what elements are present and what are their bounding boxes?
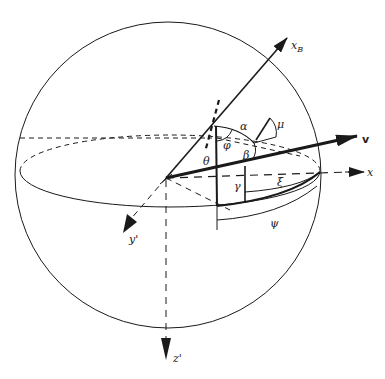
label-y-prime: y' xyxy=(128,233,138,246)
thick-ground-arc xyxy=(217,172,320,206)
label-x: x xyxy=(367,166,374,179)
label-mu: μ xyxy=(277,118,284,131)
label-z-prime: z' xyxy=(172,352,182,365)
mu-arc xyxy=(270,118,276,137)
v-vector-line xyxy=(166,136,357,178)
label-v: v xyxy=(362,133,370,146)
label-psi: ψ xyxy=(270,217,279,230)
label-xB: xB xyxy=(291,39,303,54)
xB-axis-line xyxy=(166,38,287,178)
label-phi: φ xyxy=(223,139,231,152)
y-prime-axis-line xyxy=(130,178,166,220)
label-gamma: γ xyxy=(234,180,241,193)
label-xi: ξ xyxy=(277,176,284,189)
mu-line xyxy=(256,118,270,140)
z-prime-arrowhead xyxy=(161,338,171,360)
label-beta: β xyxy=(242,149,249,162)
vertical-projection-line xyxy=(216,126,217,206)
y-prime-arrowhead xyxy=(123,214,137,233)
sphere-diagram: xB v x y' z' α μ φ β θ γ ξ ψ xyxy=(0,0,385,379)
label-alpha: α xyxy=(240,120,248,133)
label-theta: θ xyxy=(203,155,210,168)
